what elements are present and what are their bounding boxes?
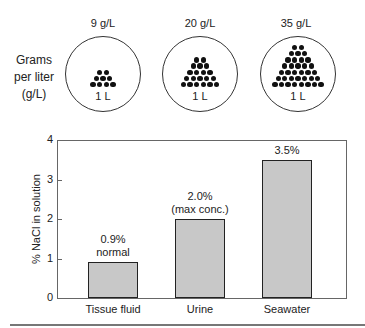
solute-dot bbox=[204, 63, 209, 68]
solute-dot bbox=[100, 76, 105, 81]
side-label-line: Grams bbox=[4, 52, 64, 69]
solute-dot bbox=[201, 70, 206, 75]
solute-dot bbox=[299, 57, 304, 62]
solute-dot bbox=[309, 63, 314, 68]
solute-dot bbox=[187, 70, 192, 75]
concentration-label: 9 g/L bbox=[73, 17, 133, 29]
y-tick-label: 1 bbox=[41, 252, 53, 264]
concentration-label: 35 g/L bbox=[266, 17, 326, 29]
side-label-line: per liter bbox=[4, 69, 64, 86]
solute-dot bbox=[295, 63, 300, 68]
solute-dot bbox=[305, 70, 310, 75]
solute-dot bbox=[272, 82, 277, 87]
side-label-line: (g/L) bbox=[4, 86, 64, 103]
solute-dot bbox=[194, 57, 199, 62]
bottom-rule bbox=[10, 324, 365, 326]
bar-seawater bbox=[262, 160, 312, 298]
solute-dot bbox=[299, 70, 304, 75]
bar-tissue-fluid bbox=[88, 262, 138, 298]
solute-dot bbox=[197, 76, 202, 81]
volume-label: 1 L bbox=[162, 90, 238, 102]
bar-urine bbox=[175, 219, 225, 298]
grams-per-liter-label: Grams per liter (g/L) bbox=[4, 52, 64, 103]
bar-value-label: 2.0%(max conc.) bbox=[155, 190, 245, 216]
y-tick bbox=[57, 298, 62, 299]
solute-dot bbox=[305, 57, 310, 62]
solute-dot bbox=[211, 76, 216, 81]
solute-dot bbox=[285, 57, 290, 62]
solute-dot bbox=[201, 57, 206, 62]
solute-dot bbox=[295, 51, 300, 56]
y-tick-label: 4 bbox=[41, 133, 53, 145]
x-category-label: Tissue fluid bbox=[63, 303, 163, 315]
x-category-label: Urine bbox=[150, 303, 250, 315]
volume-label: 1 L bbox=[260, 90, 336, 102]
y-tick-label: 3 bbox=[41, 173, 53, 185]
y-tick bbox=[57, 180, 62, 181]
y-tick bbox=[57, 140, 62, 141]
bar-value-label: 3.5% bbox=[242, 144, 332, 157]
solute-dot bbox=[110, 82, 115, 87]
y-tick bbox=[57, 219, 62, 220]
solute-dot bbox=[295, 76, 300, 81]
solute-dot bbox=[289, 63, 294, 68]
bar-value-label: 0.9%normal bbox=[68, 233, 158, 259]
volume-label: 1 L bbox=[65, 90, 141, 102]
solute-dot bbox=[292, 57, 297, 62]
solute-dot bbox=[285, 70, 290, 75]
y-tick bbox=[57, 259, 62, 260]
solute-dot bbox=[276, 76, 281, 81]
solute-dot bbox=[191, 63, 196, 68]
y-tick-label: 0 bbox=[41, 291, 53, 303]
solute-dot bbox=[305, 82, 310, 87]
solute-dot bbox=[207, 70, 212, 75]
concentration-label: 20 g/L bbox=[170, 17, 230, 29]
x-category-label: Seawater bbox=[237, 303, 337, 315]
solute-dot bbox=[104, 70, 109, 75]
solute-dot bbox=[309, 76, 314, 81]
solute-dot bbox=[197, 63, 202, 68]
y-tick-label: 2 bbox=[41, 212, 53, 224]
solute-dot bbox=[302, 63, 307, 68]
solute-dot bbox=[207, 82, 212, 87]
